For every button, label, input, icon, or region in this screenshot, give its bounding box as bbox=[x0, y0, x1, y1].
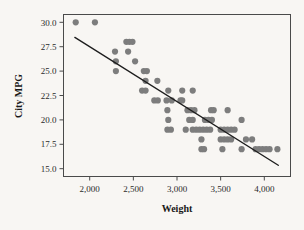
data-point bbox=[239, 146, 245, 152]
y-axis-tick-label: 15.0 bbox=[41, 164, 57, 174]
data-point bbox=[144, 68, 150, 74]
y-axis-title: City MPG bbox=[13, 74, 24, 118]
x-axis-tick-label: 3,000 bbox=[167, 184, 188, 194]
data-point bbox=[190, 88, 196, 94]
data-point bbox=[142, 88, 148, 94]
data-point bbox=[225, 107, 231, 113]
x-axis-tick-label: 4,000 bbox=[254, 184, 275, 194]
y-axis-tick-label: 25.0 bbox=[41, 66, 57, 76]
data-point bbox=[132, 58, 138, 64]
data-point bbox=[168, 127, 174, 133]
data-point-group bbox=[73, 19, 281, 152]
data-point bbox=[92, 19, 98, 25]
data-point bbox=[207, 127, 213, 133]
data-point bbox=[190, 117, 196, 123]
data-point bbox=[125, 48, 131, 54]
x-axis-tick-label: 2,500 bbox=[123, 184, 144, 194]
y-axis-tick-label: 27.5 bbox=[41, 42, 57, 52]
data-point bbox=[201, 146, 207, 152]
data-point bbox=[113, 68, 119, 74]
y-axis-tick-label: 17.5 bbox=[41, 139, 57, 149]
regression-line-segment bbox=[75, 37, 278, 165]
x-axis-tick-label: 3,500 bbox=[211, 184, 232, 194]
data-point bbox=[165, 117, 171, 123]
data-point bbox=[165, 88, 171, 94]
data-point bbox=[155, 97, 161, 103]
scatter-plot-figure: 15.017.520.022.525.027.530.0 2,0002,5003… bbox=[0, 0, 304, 230]
data-point bbox=[112, 48, 118, 54]
data-point bbox=[129, 39, 135, 45]
data-point bbox=[179, 88, 185, 94]
data-point bbox=[198, 136, 204, 142]
data-point bbox=[274, 146, 280, 152]
data-point bbox=[211, 107, 217, 113]
chart-canvas: 15.017.520.022.525.027.530.0 2,0002,5003… bbox=[0, 0, 304, 230]
x-axis-tick-label: 2,000 bbox=[80, 184, 101, 194]
data-point bbox=[164, 107, 170, 113]
data-point bbox=[239, 117, 245, 123]
data-point bbox=[243, 136, 249, 142]
y-axis-tick-group: 15.017.520.022.525.027.530.0 bbox=[41, 18, 64, 174]
x-axis-title: Weight bbox=[162, 203, 193, 214]
y-axis-tick-label: 20.0 bbox=[41, 115, 57, 125]
y-axis-tick-label: 30.0 bbox=[41, 18, 57, 28]
data-point bbox=[183, 127, 189, 133]
data-point bbox=[179, 97, 185, 103]
data-point bbox=[73, 19, 79, 25]
data-point bbox=[154, 78, 160, 84]
data-point bbox=[266, 146, 272, 152]
y-axis-tick-label: 22.5 bbox=[41, 91, 57, 101]
data-point bbox=[249, 136, 255, 142]
regression-line bbox=[75, 37, 278, 165]
x-axis-tick-group: 2,0002,5003,0003,5004,000 bbox=[80, 177, 275, 194]
data-point bbox=[232, 127, 238, 133]
data-point bbox=[219, 146, 225, 152]
